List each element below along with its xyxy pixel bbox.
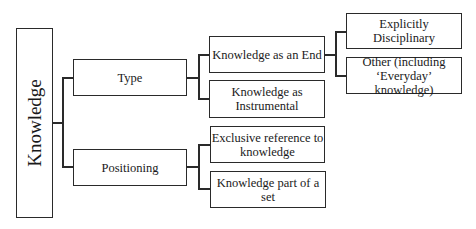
connector-to-other	[335, 75, 346, 77]
connector-to-disciplinary	[335, 31, 346, 33]
node-other-everyday: Other (including ‘Everyday’ knowledge)	[346, 57, 462, 94]
node-knowledge-as-instrumental-line1: Knowledge as	[231, 85, 302, 99]
connector-to-type	[62, 77, 73, 79]
node-explicitly-disciplinary-label: Explicitly Disciplinary	[347, 17, 461, 45]
node-positioning: Positioning	[73, 149, 187, 186]
node-knowledge: Knowledge	[16, 28, 53, 218]
node-knowledge-as-instrumental: Knowledge as Instrumental	[209, 80, 325, 118]
connector-to-end	[198, 54, 209, 56]
connector-to-part-of-set	[198, 188, 210, 190]
connector-end-trunk	[335, 31, 337, 76]
connector-positioning-trunk	[198, 144, 200, 189]
connector-to-exclusive	[198, 144, 210, 146]
node-positioning-label: Positioning	[102, 161, 159, 175]
node-type: Type	[73, 59, 187, 96]
node-knowledge-part-of-a-set-label: Knowledge part of a set	[211, 176, 325, 204]
node-knowledge-label: Knowledge	[28, 79, 42, 167]
connector-level1-trunk	[62, 77, 64, 167]
node-exclusive-reference-line2: knowledge	[240, 145, 295, 159]
node-knowledge-as-an-end: Knowledge as an End	[209, 36, 325, 73]
connector-type-trunk	[198, 54, 200, 99]
node-type-label: Type	[118, 71, 143, 85]
node-other-everyday-line1: Other (including	[363, 55, 446, 69]
connector-to-instrumental	[198, 98, 209, 100]
node-other-everyday-line2: ‘Everyday’ knowledge)	[347, 69, 461, 97]
node-exclusive-reference-line1: Exclusive reference to	[212, 131, 324, 145]
node-exclusive-reference: Exclusive reference to knowledge	[210, 126, 325, 163]
node-knowledge-as-instrumental-line2: Instrumental	[235, 99, 298, 113]
connector-to-positioning	[62, 166, 73, 168]
node-knowledge-part-of-a-set: Knowledge part of a set	[210, 171, 326, 208]
node-knowledge-as-an-end-label: Knowledge as an End	[212, 48, 321, 62]
node-explicitly-disciplinary: Explicitly Disciplinary	[346, 13, 462, 49]
